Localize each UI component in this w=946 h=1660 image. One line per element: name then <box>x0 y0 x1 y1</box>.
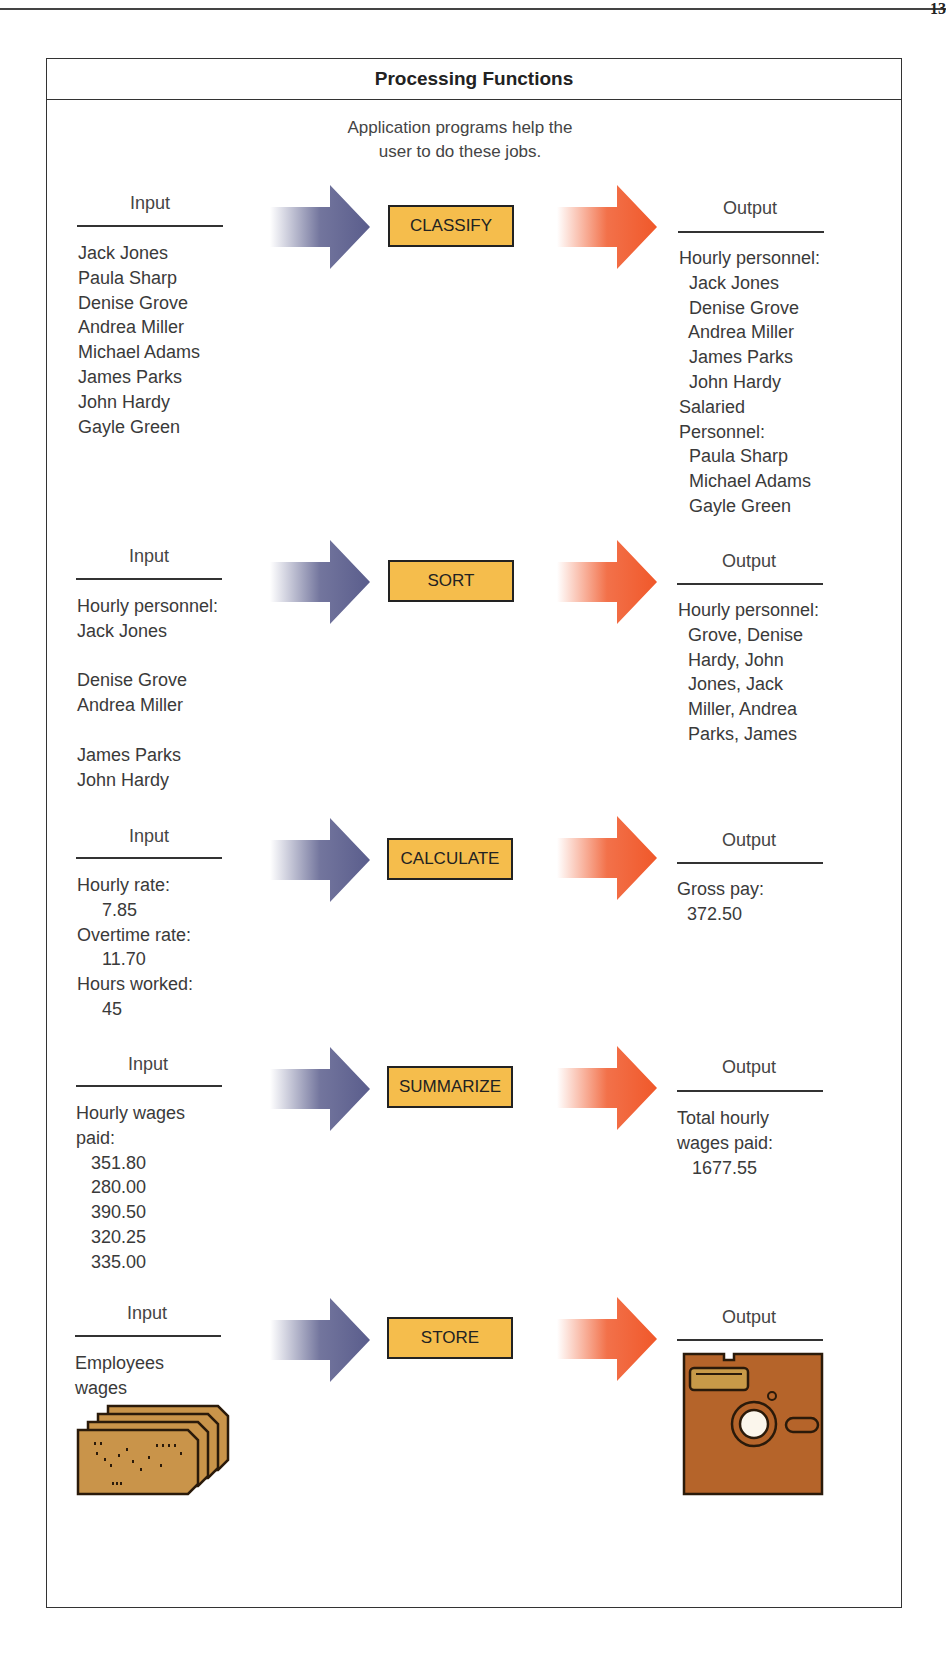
output-header: Output <box>676 1307 822 1328</box>
input-rule <box>75 1335 221 1337</box>
input-arrow-icon <box>270 1298 370 1382</box>
input-arrow-icon <box>270 1047 370 1131</box>
input-list: Employees wages <box>75 1351 164 1401</box>
output-rule <box>677 862 823 864</box>
page-top-rule <box>0 8 946 10</box>
function-box-calculate: CALCULATE <box>387 838 513 880</box>
input-rule <box>76 857 222 859</box>
input-list: Hourly wages paid: 351.80 280.00 390.50 … <box>76 1101 185 1275</box>
output-arrow-icon <box>557 185 657 269</box>
input-list: Hourly rate: 7.85 Overtime rate: 11.70 H… <box>77 873 193 1022</box>
subtitle-line-1: Application programs help the <box>270 116 650 140</box>
input-list: Jack Jones Paula Sharp Denise Grove Andr… <box>78 241 200 439</box>
function-box-store: STORE <box>387 1317 513 1359</box>
output-list: Hourly personnel: Grove, Denise Hardy, J… <box>678 598 819 747</box>
output-rule <box>677 1090 823 1092</box>
output-rule <box>677 583 823 585</box>
floppy-disk-icon <box>682 1352 824 1496</box>
output-arrow-icon <box>557 1046 657 1130</box>
page-number: 13 <box>930 0 946 18</box>
input-arrow-icon <box>270 540 370 624</box>
punched-cards-icon <box>76 1402 230 1498</box>
output-rule <box>677 1339 823 1341</box>
output-list: Total hourly wages paid: 1677.55 <box>677 1106 773 1180</box>
output-arrow-icon <box>557 816 657 900</box>
output-header: Output <box>676 1057 822 1078</box>
input-arrow-icon <box>270 185 370 269</box>
input-list: Hourly personnel: Jack Jones Denise Grov… <box>77 594 218 792</box>
output-header: Output <box>676 830 822 851</box>
output-list: Gross pay: 372.50 <box>677 877 764 927</box>
subtitle-line-2: user to do these jobs. <box>270 140 650 164</box>
output-header: Output <box>677 198 823 219</box>
input-header: Input <box>76 826 222 847</box>
output-list: Hourly personnel: Jack Jones Denise Grov… <box>679 246 820 519</box>
figure-subtitle: Application programs help the user to do… <box>270 116 650 164</box>
function-box-classify: CLASSIFY <box>388 205 514 247</box>
output-header: Output <box>676 551 822 572</box>
input-arrow-icon <box>270 818 370 902</box>
output-rule <box>678 231 824 233</box>
input-header: Input <box>74 1303 220 1324</box>
function-box-sort: SORT <box>388 560 514 602</box>
input-header: Input <box>76 546 222 567</box>
input-header: Input <box>77 193 223 214</box>
function-box-summarize: SUMMARIZE <box>387 1066 513 1108</box>
output-arrow-icon <box>557 1297 657 1381</box>
figure-title: Processing Functions <box>47 59 901 100</box>
input-rule <box>77 225 223 227</box>
input-rule <box>76 578 222 580</box>
input-rule <box>76 1085 222 1087</box>
output-arrow-icon <box>557 540 657 624</box>
input-header: Input <box>75 1054 221 1075</box>
